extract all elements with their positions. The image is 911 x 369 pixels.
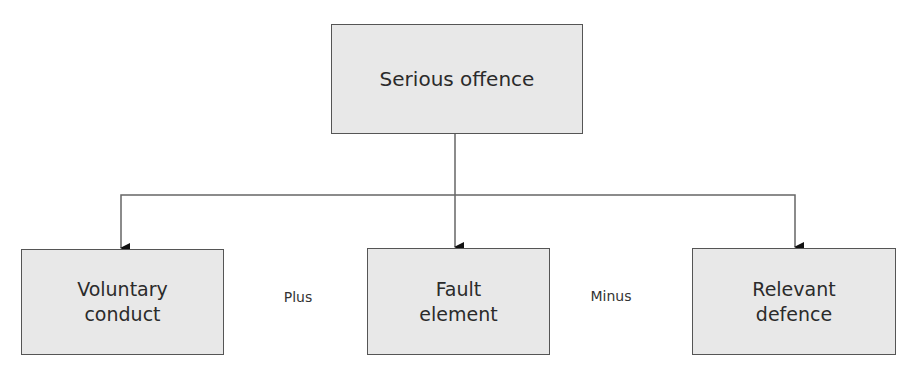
minus-operator: Minus bbox=[590, 288, 631, 304]
serious-offence-label: Serious offence bbox=[380, 67, 535, 92]
relevant-defence-label: Relevant defence bbox=[752, 277, 835, 327]
arrow-right bbox=[455, 195, 795, 247]
voluntary-conduct-label: Voluntary conduct bbox=[77, 277, 168, 327]
relevant-defence-box: Relevant defence bbox=[692, 248, 896, 355]
fault-element-box: Fault element bbox=[367, 248, 550, 355]
voluntary-conduct-box: Voluntary conduct bbox=[21, 249, 224, 355]
serious-offence-box: Serious offence bbox=[331, 24, 583, 134]
fault-element-label: Fault element bbox=[419, 277, 497, 327]
arrow-left bbox=[121, 195, 455, 248]
plus-operator: Plus bbox=[284, 289, 313, 305]
